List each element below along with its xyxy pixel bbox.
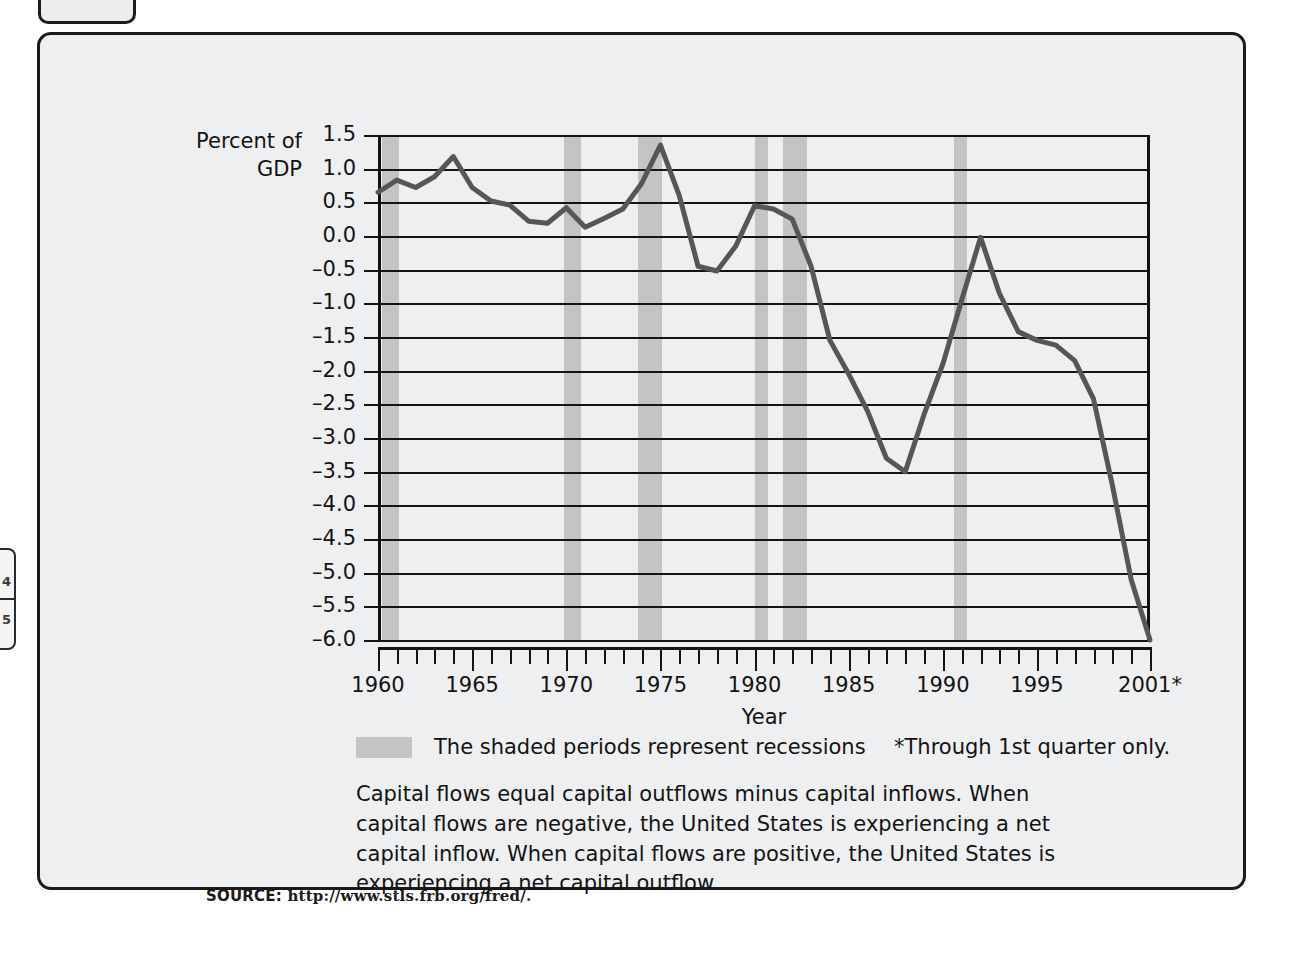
x-axis-tick-mark: [981, 647, 983, 664]
x-axis-tick-mark: [679, 647, 681, 664]
x-axis-tick-mark: [547, 647, 549, 664]
x-axis-title: Year: [378, 705, 1150, 729]
x-axis-tick-mark: [1131, 647, 1133, 664]
y-axis-tick-mark: [364, 371, 378, 373]
y-axis-tick-label: –6.0: [284, 629, 356, 650]
x-axis-tick-mark: [510, 647, 512, 664]
side-tab-glyph-top: 4: [2, 574, 11, 589]
x-axis-tick-mark: [397, 647, 399, 664]
y-axis-tick-mark: [364, 337, 378, 339]
y-axis-tick-mark: [364, 640, 378, 642]
x-axis-tick-mark: [1112, 647, 1114, 664]
x-axis-tick-label: 1980: [728, 673, 781, 697]
y-axis-tick-label: –5.0: [284, 562, 356, 583]
y-axis-tick-label: 1.5: [284, 124, 356, 145]
x-axis-tick-mark: [1037, 647, 1039, 671]
y-axis-tick-label: –3.5: [284, 461, 356, 482]
y-axis-tick-mark: [364, 472, 378, 474]
x-axis-tick-mark: [566, 647, 568, 671]
source-prefix: SOURCE:: [206, 887, 282, 905]
x-axis-tick-mark: [529, 647, 531, 664]
side-tab-glyph-bottom: 5: [2, 612, 11, 627]
x-axis-tick-mark: [717, 647, 719, 664]
x-axis-tick-mark: [1075, 647, 1077, 664]
y-axis-tick-label: –4.0: [284, 494, 356, 515]
y-axis-tick-mark: [364, 606, 378, 608]
y-axis-tick-label: –0.5: [284, 259, 356, 280]
x-axis-tick-mark: [736, 647, 738, 664]
gridline: [378, 640, 1150, 642]
x-axis-rule: [378, 647, 1150, 650]
x-axis-tick-mark: [905, 647, 907, 664]
x-axis-tick-mark: [1056, 647, 1058, 664]
figure-panel: Percent of GDP 1.51.00.50.0–0.5–1.0–1.5–…: [37, 32, 1246, 890]
recession-swatch-icon: [356, 737, 412, 758]
y-axis-tick-label: –4.5: [284, 528, 356, 549]
y-axis-tick-mark: [364, 303, 378, 305]
y-axis-tick-label: –5.5: [284, 595, 356, 616]
chart-plot-area: [378, 135, 1150, 640]
x-axis-tick-mark: [642, 647, 644, 664]
y-axis-tick-label: 1.0: [284, 158, 356, 179]
x-axis-tick-label: 2001*: [1118, 673, 1182, 697]
x-axis-tick-mark: [999, 647, 1001, 664]
y-axis-tick-mark: [364, 438, 378, 440]
page-corner-artifact: [38, 0, 136, 24]
source-line: SOURCE: http://www.stls.frb.org/fred/.: [206, 887, 531, 905]
y-axis-tick-label: –2.5: [284, 393, 356, 414]
x-axis-tick-mark: [962, 647, 964, 664]
x-axis-tick-mark: [604, 647, 606, 664]
legend: The shaded periods represent recessions …: [356, 735, 1216, 761]
y-axis-tick-label: –2.0: [284, 360, 356, 381]
y-axis-tick-mark: [364, 135, 378, 137]
y-axis-tick-mark: [364, 202, 378, 204]
x-axis-tick-mark: [924, 647, 926, 664]
x-axis-tick-label: 1970: [540, 673, 593, 697]
x-axis-tick-label: 1975: [634, 673, 687, 697]
y-axis-tick-mark: [364, 505, 378, 507]
x-axis-tick-mark: [792, 647, 794, 664]
x-axis-tick-label: 1985: [822, 673, 875, 697]
capital-flows-line-series: [378, 135, 1150, 640]
x-axis-tick-mark: [434, 647, 436, 664]
x-axis-tick-mark: [830, 647, 832, 664]
figure-caption: Capital flows equal capital outflows min…: [356, 780, 1096, 899]
x-axis-tick-mark: [623, 647, 625, 664]
x-axis-tick-label: 1960: [351, 673, 404, 697]
source-url: http://www.stls.frb.org/fred/.: [287, 887, 531, 905]
x-axis-tick-mark: [416, 647, 418, 664]
x-axis-tick-mark: [453, 647, 455, 664]
x-axis-tick-mark: [585, 647, 587, 664]
y-axis-tick-mark: [364, 169, 378, 171]
y-axis-tick-label: 0.5: [284, 191, 356, 212]
x-axis-tick-mark: [472, 647, 474, 671]
x-axis-tick-mark: [698, 647, 700, 664]
side-tab-divider: [0, 598, 14, 600]
y-axis-tick-mark: [364, 573, 378, 575]
x-axis-tick-label: 1995: [1010, 673, 1063, 697]
y-axis-tick-mark: [364, 270, 378, 272]
x-axis-tick-mark: [886, 647, 888, 664]
y-axis-tick-label: –1.5: [284, 326, 356, 347]
x-axis-tick-label: 1990: [916, 673, 969, 697]
x-axis-tick-mark: [660, 647, 662, 671]
x-axis-tick-mark: [1018, 647, 1020, 664]
x-axis-tick-mark: [773, 647, 775, 664]
y-axis-tick-label: 0.0: [284, 225, 356, 246]
x-axis-tick-mark: [1150, 647, 1152, 671]
y-axis-tick-label: –1.0: [284, 292, 356, 313]
x-axis-tick-mark: [1094, 647, 1096, 664]
x-axis-tick-mark: [849, 647, 851, 671]
x-axis-tick-label: 1965: [445, 673, 498, 697]
y-axis-tick-mark: [364, 236, 378, 238]
x-axis-tick-mark: [943, 647, 945, 671]
page-side-tab-artifact: 4 5: [0, 548, 16, 650]
legend-label: The shaded periods represent recessions: [434, 735, 866, 759]
x-axis-tick-mark: [491, 647, 493, 664]
x-axis-tick-mark: [755, 647, 757, 671]
x-axis-tick-mark: [378, 647, 380, 671]
footnote-label: *Through 1st quarter only.: [894, 735, 1170, 759]
y-axis-tick-label: –3.0: [284, 427, 356, 448]
y-axis-tick-mark: [364, 404, 378, 406]
y-axis-tick-mark: [364, 539, 378, 541]
